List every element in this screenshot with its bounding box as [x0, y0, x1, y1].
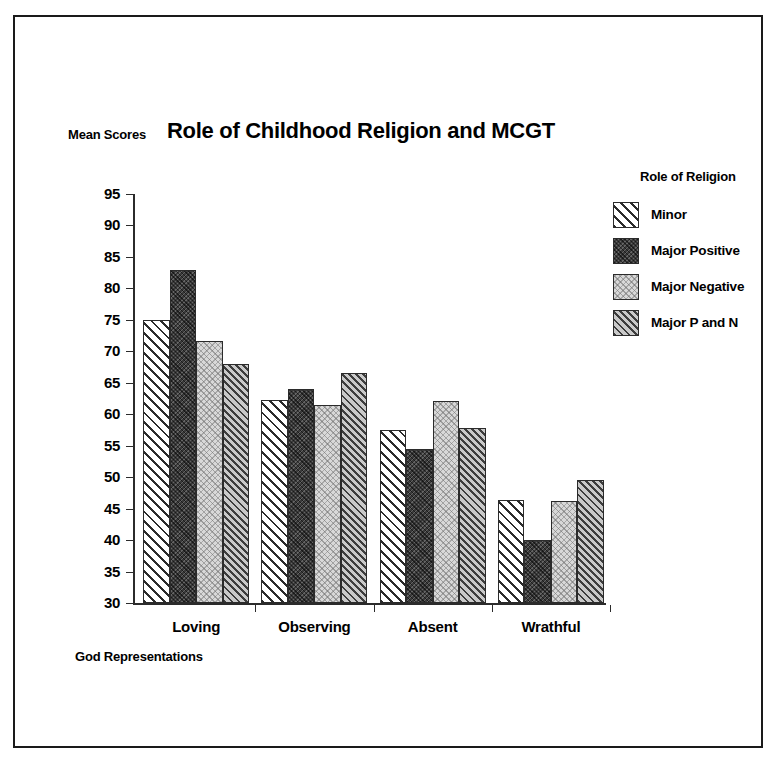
legend-label: Minor [651, 207, 687, 222]
y-axis-tick: 40 [126, 540, 133, 541]
bar [143, 320, 170, 603]
x-axis-line [133, 603, 606, 605]
x-axis-tick [255, 605, 256, 612]
bar [341, 373, 368, 603]
bar [406, 449, 433, 603]
y-axis-tick-label: 50 [104, 468, 120, 485]
y-axis-tick: 45 [126, 509, 133, 510]
legend-swatch-icon [613, 274, 639, 300]
y-axis-label: Mean Scores [68, 127, 146, 142]
legend-label: Major Negative [651, 279, 744, 294]
chart-title: Role of Childhood Religion and MCGT [167, 118, 555, 144]
y-axis-tick-label: 60 [104, 405, 120, 422]
bar [223, 364, 250, 603]
y-axis-tick-label: 75 [104, 311, 120, 328]
bar [433, 401, 460, 603]
legend-label: Major P and N [651, 315, 738, 330]
bar [524, 540, 551, 603]
legend-swatch-icon [613, 310, 639, 336]
legend-title: Role of Religion [640, 169, 736, 184]
bar [196, 341, 223, 603]
bar [380, 430, 407, 603]
bar [170, 270, 197, 603]
y-axis-tick: 90 [126, 225, 133, 226]
y-axis-tick: 80 [126, 288, 133, 289]
y-axis-tick-label: 40 [104, 531, 120, 548]
bar [551, 501, 578, 603]
y-axis-tick-label: 90 [104, 216, 120, 233]
figure-frame: Mean Scores Role of Childhood Religion a… [13, 15, 763, 748]
y-axis-tick: 55 [126, 446, 133, 447]
legend-swatch-icon [613, 238, 639, 264]
bar [459, 428, 486, 603]
x-axis-tick-label: Observing [278, 618, 350, 635]
x-axis-tick-label: Loving [172, 618, 220, 635]
y-axis-tick-label: 45 [104, 500, 120, 517]
x-axis-tick-label: Wrathful [521, 618, 580, 635]
y-axis-tick-label: 85 [104, 248, 120, 265]
y-axis-tick-label: 70 [104, 342, 120, 359]
y-axis-tick: 60 [126, 414, 133, 415]
y-axis-tick-label: 65 [104, 374, 120, 391]
y-axis-tick: 95 [126, 194, 133, 195]
y-axis-tick: 65 [126, 383, 133, 384]
y-axis-tick: 75 [126, 320, 133, 321]
y-axis-tick-label: 80 [104, 279, 120, 296]
y-axis-tick-label: 95 [104, 185, 120, 202]
x-axis-tick [374, 605, 375, 612]
plot-area: 9590858075706560555045403530 LovingObser… [133, 194, 606, 605]
x-axis-tick-label: Absent [408, 618, 458, 635]
bar [288, 389, 315, 603]
x-axis-tick [610, 605, 611, 612]
y-axis-tick: 50 [126, 477, 133, 478]
bar [261, 400, 288, 603]
bar [498, 500, 525, 603]
y-axis-tick: 70 [126, 351, 133, 352]
legend-swatch-icon [613, 202, 639, 228]
x-axis-label: God Representations [75, 649, 203, 664]
y-axis-tick: 35 [126, 572, 133, 573]
legend-label: Major Positive [651, 243, 740, 258]
y-axis-tick: 85 [126, 257, 133, 258]
x-axis-tick [492, 605, 493, 612]
y-axis-tick-label: 35 [104, 563, 120, 580]
y-axis-tick-label: 55 [104, 437, 120, 454]
bar [577, 480, 604, 603]
y-axis-tick-label: 30 [104, 594, 120, 611]
y-axis-tick: 30 [126, 603, 133, 604]
y-axis-line [133, 194, 135, 605]
bar [314, 405, 341, 603]
